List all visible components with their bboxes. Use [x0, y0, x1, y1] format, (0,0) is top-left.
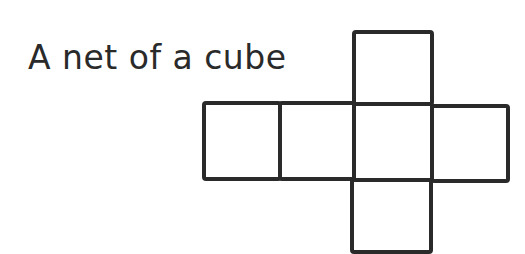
cube-face-right — [432, 106, 508, 181]
cube-face-bottom — [352, 180, 431, 252]
cube-face-center — [354, 104, 432, 180]
cube-face-top — [354, 32, 432, 104]
cube-net-diagram — [0, 0, 525, 254]
cube-face-left — [204, 103, 280, 179]
cube-face-center-left — [280, 103, 354, 179]
